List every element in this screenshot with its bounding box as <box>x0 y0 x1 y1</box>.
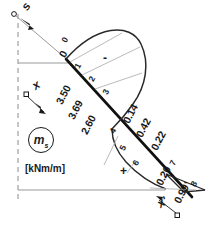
quantity-symbol: ms <box>34 130 49 149</box>
s-axis-origin-marker <box>12 12 17 17</box>
sign-negative-upper: - <box>103 52 107 64</box>
x-axis-origin-marker <box>24 92 29 97</box>
sign-positive-lower: + <box>120 165 127 177</box>
quantity-symbol-badge: ms <box>28 127 54 153</box>
unit-label: [kNm/m] <box>25 164 65 174</box>
x-prime-axis-origin-marker <box>175 213 180 218</box>
quantity-symbol-subscript: s <box>44 143 48 150</box>
quantity-symbol-letter: m <box>34 133 45 147</box>
s-axis-arrow <box>20 18 34 30</box>
ordinate-ray-5 <box>104 136 118 165</box>
sign-negative-end-lobe: - <box>184 177 187 187</box>
ordinate-ray-2 <box>82 47 140 75</box>
x-axis-arrow <box>35 103 46 114</box>
moment-diagram-figure: s x x' 0 1 2 3 4 5 6 7 8 0 3.50 3.69 2.6… <box>0 0 212 229</box>
